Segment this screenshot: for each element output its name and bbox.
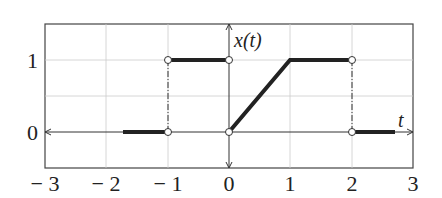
svg-text:1: 1 (27, 48, 38, 73)
y-tick-labels: 0 1 (27, 48, 38, 145)
y-axis-label: x(t) (233, 29, 262, 52)
x-axis-label: t (398, 109, 404, 131)
svg-text:2: 2 (347, 171, 358, 196)
svg-text:1: 1 (285, 171, 296, 196)
svg-text:− 3: − 3 (31, 171, 60, 196)
svg-text:− 1: − 1 (154, 171, 183, 196)
signal-plot: − 3 − 2 − 1 0 1 2 3 0 1 x(t) t (0, 0, 442, 198)
x-tick-labels: − 3 − 2 − 1 0 1 2 3 (31, 171, 419, 196)
svg-text:0: 0 (224, 171, 235, 196)
svg-text:0: 0 (27, 120, 38, 145)
svg-text:3: 3 (408, 171, 419, 196)
svg-text:− 2: − 2 (92, 171, 121, 196)
